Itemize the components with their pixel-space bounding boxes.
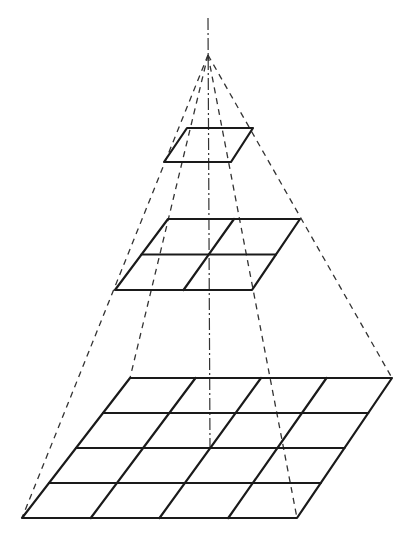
grid-pyramid-diagram (0, 0, 413, 548)
projection-line-tr (208, 55, 392, 378)
grid-level-middle (115, 219, 300, 290)
grid-levels (22, 128, 392, 518)
grid-level-bottom (22, 378, 392, 518)
center-axis (208, 18, 210, 448)
projection-line-tl (130, 55, 208, 378)
